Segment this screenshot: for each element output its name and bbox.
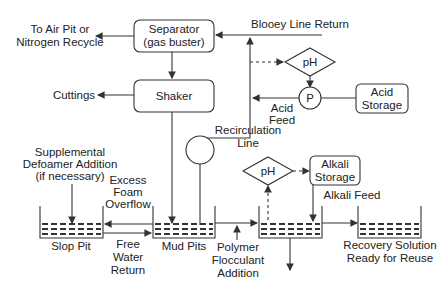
cuttings-label: Cuttings bbox=[53, 89, 95, 101]
alkali-feed-label: Alkali Feed bbox=[324, 189, 381, 201]
defoamer-label-3: (if necessary) bbox=[35, 170, 104, 182]
excess-foam-label-2: Foam bbox=[113, 186, 142, 198]
excess-foam-label: Excess bbox=[109, 174, 146, 186]
free-water-label: Free bbox=[116, 238, 140, 250]
recovery-tank bbox=[358, 206, 421, 238]
acid-storage-box: Acid Storage bbox=[356, 84, 408, 113]
defoamer-label-2: Defoamer Addition bbox=[23, 158, 118, 170]
recovery-label-2: Ready for Reuse bbox=[347, 252, 433, 264]
free-water-label-2: Water bbox=[113, 251, 143, 263]
alkali-storage-box: Alkali Storage bbox=[310, 156, 360, 185]
recirc-label: Recirculation bbox=[215, 124, 281, 136]
slop-pit-label: Slop Pit bbox=[51, 240, 91, 252]
pump-circle: P bbox=[299, 87, 321, 109]
mud-pits-tank bbox=[153, 206, 215, 238]
acid-storage-label-2: Storage bbox=[362, 99, 402, 111]
blooey-label: Blooey Line Return bbox=[251, 18, 349, 30]
recovery-label: Recovery Solution bbox=[343, 239, 436, 251]
acid-feed-label: Acid bbox=[271, 102, 293, 114]
separator-label: Separator bbox=[149, 23, 200, 35]
recirc-label-2: Line bbox=[237, 137, 259, 149]
to-air-pit-label: To Air Pit or bbox=[31, 23, 90, 35]
separator-box: Separator (gas buster) bbox=[134, 20, 214, 52]
free-water-label-3: Return bbox=[111, 264, 146, 276]
separator-sublabel: (gas buster) bbox=[143, 36, 205, 48]
shaker-box: Shaker bbox=[134, 80, 214, 112]
shaker-label: Shaker bbox=[156, 90, 193, 102]
polymer-label: Polymer bbox=[217, 241, 259, 253]
alkali-storage-label-2: Storage bbox=[315, 171, 355, 183]
mud-pits-label: Mud Pits bbox=[162, 240, 207, 252]
recirculation-pump-icon bbox=[186, 136, 214, 164]
polymer-label-2: Flocculant bbox=[212, 254, 265, 266]
polymer-label-3: Addition bbox=[217, 267, 259, 279]
acid-storage-label: Acid bbox=[371, 86, 393, 98]
ph-alkali-label: pH bbox=[261, 165, 276, 177]
pump-label: P bbox=[306, 92, 314, 104]
to-air-pit-label-2: Nitrogen Recycle bbox=[16, 36, 104, 48]
ph-acid-diamond: pH bbox=[285, 48, 335, 76]
ph-alkali-diamond: pH bbox=[243, 157, 293, 185]
ph-acid-label: pH bbox=[303, 56, 318, 68]
alkali-storage-label: Alkali bbox=[321, 158, 348, 170]
drilling-fluid-recovery-diagram: Separator (gas buster) To Air Pit or Nit… bbox=[0, 0, 445, 290]
defoamer-label: Supplemental bbox=[35, 146, 105, 158]
excess-foam-label-3: Overflow bbox=[105, 198, 151, 210]
